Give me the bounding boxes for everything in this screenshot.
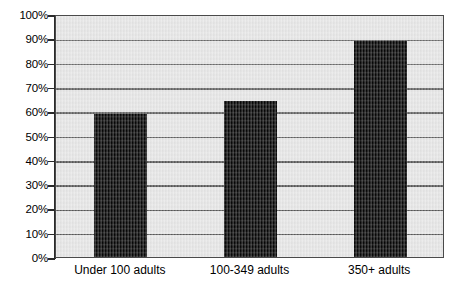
y-axis-tick-mark (48, 161, 55, 163)
y-axis-tick-mark (48, 137, 55, 139)
y-axis-tick-mark (48, 15, 55, 17)
x-axis-tick-label: 100-349 adults (185, 263, 315, 277)
y-axis-tick-labels: 0%10%20%30%40%50%60%70%80%90%100% (0, 8, 48, 258)
bar (94, 114, 147, 257)
y-axis-tick-mark (48, 88, 55, 90)
y-axis-tick-label: 10% (0, 228, 48, 240)
y-axis-tick-mark (48, 185, 55, 187)
bar-chart: 0%10%20%30%40%50%60%70%80%90%100% Under … (0, 0, 459, 291)
y-axis-tick-mark (48, 112, 55, 114)
y-axis-tick-label: 80% (0, 58, 48, 70)
x-axis-tick-label: 350+ adults (314, 263, 444, 277)
y-axis-tick-label: 0% (0, 252, 48, 264)
bar (354, 41, 407, 257)
x-axis-tick-label: Under 100 adults (55, 263, 185, 277)
y-axis-tick-label: 30% (0, 179, 48, 191)
y-axis-tick-mark (48, 234, 55, 236)
y-axis-tick-label: 60% (0, 106, 48, 118)
y-axis-tick-mark (48, 209, 55, 211)
y-axis-tick-label: 100% (0, 9, 48, 21)
y-axis-tick-label: 90% (0, 33, 48, 45)
y-axis-tick-label: 50% (0, 131, 48, 143)
y-axis-tick-label: 70% (0, 82, 48, 94)
x-axis-tick-labels: Under 100 adults100-349 adults350+ adult… (55, 263, 444, 285)
y-axis-tick-label: 40% (0, 155, 48, 167)
y-axis-tick-mark (48, 258, 55, 260)
plot-area (55, 15, 444, 258)
y-axis-tick-label: 20% (0, 203, 48, 215)
y-axis-tick-mark (48, 64, 55, 66)
bar (224, 101, 277, 257)
y-axis-tick-mark (48, 39, 55, 41)
